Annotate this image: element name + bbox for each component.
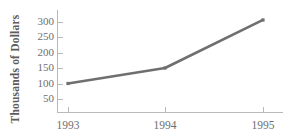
- chart-screenshot: Thousands of Dollars 50100150200250300 1…: [0, 0, 287, 137]
- data-line-sales: [68, 20, 263, 84]
- plot-area: 50100150200250300 199319941995: [0, 0, 287, 137]
- data-point-1994: [163, 66, 166, 69]
- series-layer: [0, 0, 287, 137]
- data-markers: [66, 18, 264, 85]
- data-point-1995: [261, 18, 264, 21]
- data-point-1993: [66, 82, 69, 85]
